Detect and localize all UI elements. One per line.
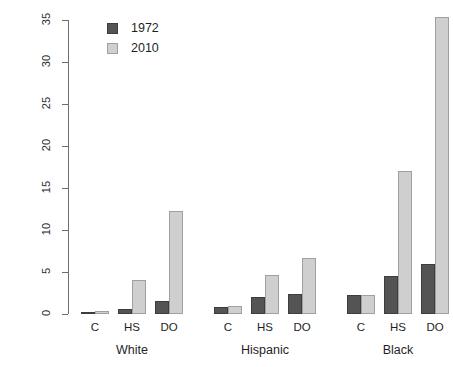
y-axis-tick (62, 272, 68, 273)
y-axis-tick (62, 230, 68, 231)
legend-entry-1972: 1972 (107, 18, 159, 38)
x-axis-group-label-hispanic: Hispanic (210, 343, 320, 357)
y-axis-tick-label: 30 (40, 49, 52, 73)
x-axis-category-label: DO (149, 321, 189, 333)
x-axis-category-label: C (341, 321, 381, 333)
plot-area (69, 14, 399, 314)
y-axis-tick-label: 20 (40, 133, 52, 157)
bar-hispanic-c-2010 (228, 306, 242, 314)
y-axis-tick (62, 104, 68, 105)
y-axis-title: Percentage Incarcerated (0, 0, 22, 367)
bar-black-hs-1972 (384, 276, 398, 314)
bar-white-c-2010 (95, 311, 109, 314)
x-axis-category-label: HS (112, 321, 152, 333)
y-axis-tick (62, 314, 68, 315)
legend-swatch-2010 (107, 43, 118, 54)
y-axis-tick (62, 146, 68, 147)
y-axis-tick (62, 188, 68, 189)
x-axis-group-label-black: Black (343, 343, 453, 357)
bar-hispanic-do-2010 (302, 258, 316, 314)
chart-legend: 19722010 (107, 18, 159, 58)
legend-label-1972: 1972 (131, 21, 159, 35)
x-axis-category-label: DO (415, 321, 453, 333)
bar-hispanic-hs-2010 (265, 275, 279, 314)
x-axis-category-label: C (208, 321, 248, 333)
x-axis-category-label: HS (245, 321, 285, 333)
legend-entry-2010: 2010 (107, 38, 159, 58)
x-axis-group-label-white: White (77, 343, 187, 357)
y-axis-tick-label: 35 (40, 7, 52, 31)
x-axis-category-label: C (75, 321, 115, 333)
legend-label-2010: 2010 (131, 41, 159, 55)
bar-white-hs-1972 (118, 309, 132, 314)
bar-hispanic-c-1972 (214, 307, 228, 314)
y-axis-tick (62, 20, 68, 21)
y-axis-tick (62, 62, 68, 63)
y-axis-tick-label: 25 (40, 91, 52, 115)
bar-black-do-1972 (421, 264, 435, 314)
bar-hispanic-hs-1972 (251, 297, 265, 314)
y-axis-tick-label: 0 (40, 301, 52, 325)
x-axis-category-label: DO (282, 321, 322, 333)
y-axis-tick-label: 15 (40, 175, 52, 199)
bar-black-do-2010 (435, 17, 449, 314)
bar-white-hs-2010 (132, 280, 146, 314)
bar-white-c-1972 (81, 312, 95, 314)
y-axis-tick-label: 5 (40, 259, 52, 283)
x-axis-category-label: HS (378, 321, 418, 333)
bar-hispanic-do-1972 (288, 294, 302, 314)
bar-black-c-2010 (361, 295, 375, 314)
bar-black-c-1972 (347, 295, 361, 314)
bar-black-hs-2010 (398, 171, 412, 314)
bar-white-do-2010 (169, 211, 183, 314)
legend-swatch-1972 (107, 23, 118, 34)
y-axis-tick-label: 10 (40, 217, 52, 241)
bar-white-do-1972 (155, 301, 169, 314)
